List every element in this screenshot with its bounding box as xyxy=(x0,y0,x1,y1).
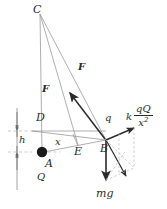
point-label-E: E xyxy=(74,146,82,157)
reference-lines xyxy=(8,131,60,152)
parallelogram-construction xyxy=(106,128,134,180)
height-label-h: h xyxy=(19,135,25,145)
force-label-F-vertical: F xyxy=(42,84,49,94)
dash-diagonal xyxy=(106,140,134,168)
weight-label-mg: mg xyxy=(96,188,113,199)
coulomb-fraction: qQ x2 xyxy=(134,104,153,128)
charge-label-Q: Q xyxy=(37,172,45,182)
charge-label-q: q xyxy=(105,113,111,123)
force-label-F-diagonal: F xyxy=(78,62,85,72)
denominator-exponent: 2 xyxy=(144,116,148,124)
force-diagram-figure: C D A E B F F q Q x h mg k qQ x2 xyxy=(0,0,167,209)
vector-force-F xyxy=(70,93,105,139)
dash-bottom-side xyxy=(106,168,134,180)
charge-Q-dot xyxy=(37,147,47,157)
line-C-to-B xyxy=(40,14,106,140)
point-label-C: C xyxy=(33,4,41,15)
coulomb-constant-k: k xyxy=(126,111,132,122)
vector-resultant xyxy=(106,140,126,176)
datum-line-D-to-B xyxy=(32,131,106,140)
vector-coulomb-force xyxy=(106,128,134,140)
coulomb-denominator: x2 xyxy=(136,116,150,128)
coulomb-numerator: qQ xyxy=(134,104,153,115)
point-label-D: D xyxy=(36,112,45,123)
coulomb-force-expression: k qQ x2 xyxy=(126,104,153,128)
point-label-A: A xyxy=(45,158,53,169)
distance-label-x: x xyxy=(55,137,61,147)
point-label-B: B xyxy=(100,143,108,154)
line-C-to-E xyxy=(40,14,78,145)
